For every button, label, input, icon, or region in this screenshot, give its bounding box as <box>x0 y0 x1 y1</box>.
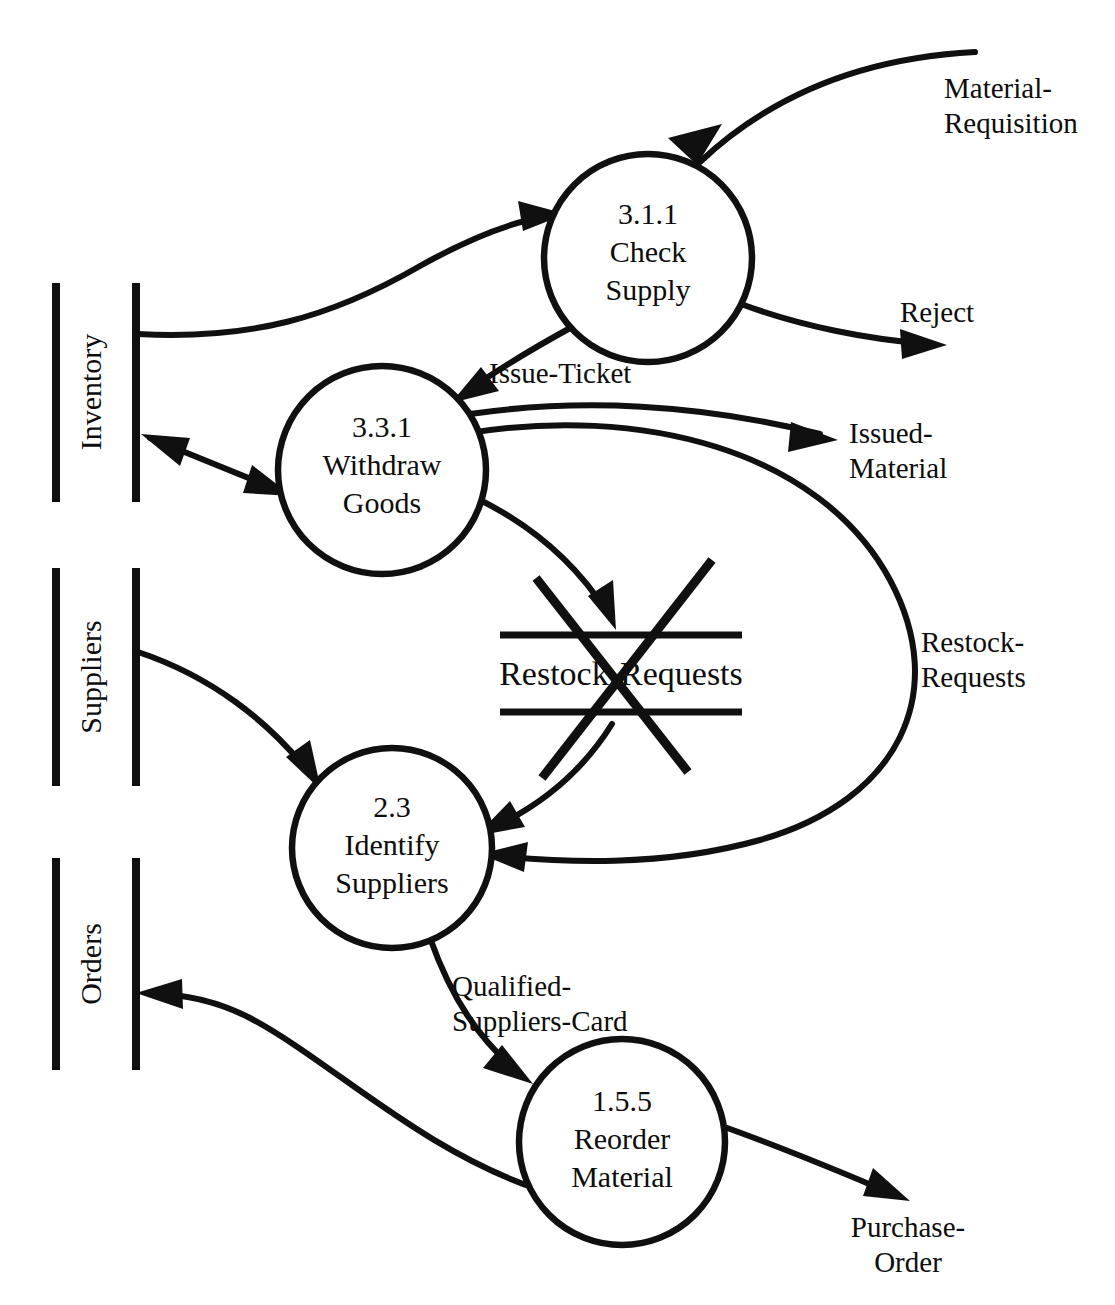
process-reorder-material-name-line2: Material <box>571 1160 673 1193</box>
flow-label-restock-requests-line1: Restock- <box>921 626 1024 658</box>
flow-label-restock-requests-line2: Requests <box>921 661 1026 693</box>
flow-label-qualified-suppliers-card: Qualified- Suppliers-Card <box>452 970 628 1037</box>
dfd-canvas: Inventory Suppliers Orders Restock-Reque… <box>0 0 1115 1305</box>
process-withdraw-goods-name-line2: Goods <box>343 486 421 519</box>
flow-restock-to-store <box>480 500 616 630</box>
flow-label-reject: Reject <box>900 296 974 328</box>
flow-label-purchase-order-line2: Order <box>874 1246 942 1278</box>
data-flow-diagram: Inventory Suppliers Orders Restock-Reque… <box>0 0 1115 1305</box>
flow-label-issued-material-line1: Issued- <box>849 417 933 449</box>
flow-purchase-order <box>716 1124 910 1201</box>
flow-label-qualified-suppliers-card-line2: Suppliers-Card <box>452 1005 628 1037</box>
process-check-supply-number: 3.1.1 <box>618 197 678 230</box>
process-identify-suppliers-number: 2.3 <box>373 790 411 823</box>
data-store-restock-requests: Restock-Requests <box>499 560 743 778</box>
flow-inventory-withdraw-goods <box>141 434 292 496</box>
flow-label-material-requisition-line1: Material- <box>944 72 1052 104</box>
flow-suppliers-to-identify <box>138 652 321 790</box>
flow-material-requisition <box>668 52 975 165</box>
data-store-suppliers: Suppliers <box>56 568 136 786</box>
flow-label-qualified-suppliers-card-line1: Qualified- <box>452 970 571 1002</box>
process-check-supply-name-line1: Check <box>610 235 687 268</box>
flow-label-purchase-order: Purchase- Order <box>851 1211 965 1278</box>
flow-label-restock-requests: Restock- Requests <box>921 626 1026 693</box>
process-reorder-material[interactable]: 1.5.5 Reorder Material <box>519 1039 725 1245</box>
flow-label-issued-material: Issued- Material <box>849 417 947 484</box>
data-store-suppliers-label: Suppliers <box>74 620 107 733</box>
data-store-orders: Orders <box>56 858 136 1070</box>
data-store-orders-label: Orders <box>74 923 107 1005</box>
flow-label-issue-ticket: Issue-Ticket <box>489 357 631 389</box>
process-reorder-material-name-line1: Reorder <box>574 1122 671 1155</box>
flow-inventory-to-check-supply <box>138 201 566 335</box>
process-withdraw-goods-number: 3.3.1 <box>352 410 412 443</box>
process-check-supply[interactable]: 3.1.1 Check Supply <box>544 154 752 362</box>
flow-restock-store-to-identify <box>476 724 612 836</box>
flow-label-material-requisition: Material- Requisition <box>944 72 1078 139</box>
process-identify-suppliers[interactable]: 2.3 Identify Suppliers <box>292 748 492 948</box>
process-withdraw-goods-name-line1: Withdraw <box>323 448 442 481</box>
process-withdraw-goods[interactable]: 3.3.1 Withdraw Goods <box>278 366 486 574</box>
process-identify-suppliers-name-line1: Identify <box>345 828 440 861</box>
data-store-inventory: Inventory <box>56 283 136 502</box>
process-check-supply-name-line2: Supply <box>605 273 690 306</box>
process-identify-suppliers-name-line2: Suppliers <box>335 866 448 899</box>
data-store-inventory-label: Inventory <box>74 334 107 451</box>
process-reorder-material-number: 1.5.5 <box>592 1084 652 1117</box>
flow-label-purchase-order-line1: Purchase- <box>851 1211 965 1243</box>
flow-label-issued-material-line2: Material <box>849 452 947 484</box>
flow-label-material-requisition-line2: Requisition <box>944 107 1078 139</box>
